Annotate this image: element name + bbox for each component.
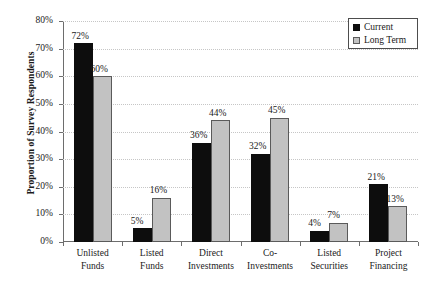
x-axis-label-line: Investments [241, 260, 300, 273]
x-axis-label-line: Investments [181, 260, 240, 273]
y-axis-tick-label: 60% [36, 72, 53, 82]
bar-long-term [211, 120, 230, 242]
black-square-icon [353, 24, 360, 31]
gridline [63, 214, 418, 215]
y-axis-tick [59, 159, 63, 160]
y-axis-tick [59, 104, 63, 105]
bar-value-label: 4% [308, 219, 321, 229]
bar-value-label: 32% [249, 142, 266, 152]
x-axis-label-line: Funds [122, 260, 181, 273]
x-axis-label-line: Project [359, 247, 418, 260]
bar-value-label: 7% [327, 211, 340, 221]
x-axis-label-line: Listed [122, 247, 181, 260]
y-axis-tick-label: 50% [36, 99, 53, 109]
y-axis-tick-label: 40% [36, 127, 53, 137]
bar-long-term [270, 118, 289, 242]
y-axis-tick-label: 0% [40, 237, 53, 247]
bar-current [369, 184, 388, 242]
legend-item-current: Current [353, 21, 417, 34]
x-axis-label: ListedFunds [122, 247, 181, 272]
bar-value-label: 21% [367, 173, 384, 183]
bar-value-label: 44% [209, 109, 226, 119]
bar-long-term [93, 76, 112, 242]
chart-legend: Current Long Term [348, 18, 418, 49]
bar-value-label: 36% [190, 131, 207, 141]
legend-item-label: Current [364, 23, 393, 33]
x-axis-tick [418, 242, 419, 246]
legend-item-label: Long Term [364, 36, 406, 46]
x-axis-tick [241, 242, 242, 246]
x-axis-label: DirectInvestments [181, 247, 240, 272]
x-axis-tick [181, 242, 182, 246]
x-axis-label: ListedSecurities [300, 247, 359, 272]
x-axis-category-labels: UnlistedFundsListedFundsDirectInvestment… [63, 247, 418, 283]
bar-value-label: 13% [386, 195, 403, 205]
y-axis-tick-label: 70% [36, 44, 53, 54]
x-axis-label-line: Securities [300, 260, 359, 273]
gridline [63, 76, 418, 77]
x-axis-tick [122, 242, 123, 246]
y-axis-tick [59, 214, 63, 215]
y-axis-tick [59, 132, 63, 133]
bar-chart: Proportion of Survey Respondents 0%10%20… [0, 0, 433, 286]
y-axis-tick-label: 80% [36, 16, 53, 26]
bar-long-term [152, 198, 171, 242]
x-axis-label-line: Financing [359, 260, 418, 273]
legend-item-long-term: Long Term [353, 34, 417, 47]
bar-long-term [329, 223, 348, 242]
x-axis-label: ProjectFinancing [359, 247, 418, 272]
x-axis-label: Co-Investments [241, 247, 300, 272]
x-axis-tick [300, 242, 301, 246]
gridline [63, 132, 418, 133]
y-axis-tick [59, 49, 63, 50]
x-axis-tick [63, 242, 64, 246]
x-axis-label-line: Direct [181, 247, 240, 260]
bar-value-label: 5% [131, 217, 144, 227]
gridline [63, 104, 418, 105]
bar-current [251, 154, 270, 242]
x-axis-label-line: Unlisted [63, 247, 122, 260]
x-axis-label: UnlistedFunds [63, 247, 122, 272]
y-axis-tick [59, 76, 63, 77]
plot-area: 72%60%5%16%36%44%32%45%4%7%21%13% [63, 21, 418, 242]
y-axis-tick-labels: 0%10%20%30%40%50%60%70%80% [0, 21, 59, 242]
gridline [63, 159, 418, 160]
bar-current [133, 228, 152, 242]
bar-value-label: 60% [91, 65, 108, 75]
bar-current [310, 231, 329, 242]
bar-long-term [388, 206, 407, 242]
bar-value-label: 72% [72, 32, 89, 42]
y-axis-tick [59, 21, 63, 22]
bar-value-label: 45% [268, 106, 285, 116]
x-axis-tick [359, 242, 360, 246]
x-axis-label-line: Co- [241, 247, 300, 260]
y-axis-tick-label: 10% [36, 210, 53, 220]
gray-square-icon [353, 37, 360, 44]
x-axis-label-line: Listed [300, 247, 359, 260]
y-axis-tick-label: 20% [36, 182, 53, 192]
gridline [63, 187, 418, 188]
y-axis-tick [59, 187, 63, 188]
bar-value-label: 16% [150, 186, 167, 196]
x-axis-label-line: Funds [63, 260, 122, 273]
bar-current [192, 143, 211, 242]
y-axis-tick-label: 30% [36, 154, 53, 164]
